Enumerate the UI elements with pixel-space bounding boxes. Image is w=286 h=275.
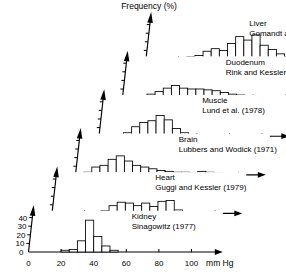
- histogram-bar: [236, 37, 244, 59]
- y-tick-label-0: 0: [19, 248, 24, 257]
- panel-y-axis-arrow: [53, 167, 59, 178]
- y-tick-label-30: 30: [17, 222, 26, 231]
- x-tick-label-100: 100: [185, 259, 199, 268]
- panel-subtitle-kidney: Sinagowitz (1977): [132, 222, 196, 231]
- panel-subtitle-brain: Lubbers and Wodick (1971): [179, 145, 277, 154]
- histogram-bar: [244, 40, 252, 59]
- histogram-bar: [252, 35, 260, 59]
- chart-canvas: LiverGomandt and Kessler (1973)DuodenumR…: [0, 0, 286, 275]
- oxygen-partial-pressure-histogram-figure: LiverGomandt and Kessler (1973)DuodenumR…: [0, 0, 286, 275]
- panel-subtitle-duodenum: Rink and Kessler (1973): [226, 68, 286, 77]
- x-axis-label: mm Hg: [206, 258, 234, 268]
- histogram-bar: [102, 246, 110, 252]
- histogram-bar: [110, 250, 118, 252]
- histogram-bar: [69, 249, 77, 252]
- panel-subtitle-liver: Gomandt and Kessler (1973): [249, 29, 286, 38]
- panel-title-duodenum: Duodenum: [226, 58, 265, 67]
- panel-subtitle-muscle: Lund et al. (1978): [202, 106, 265, 115]
- histogram-bar: [156, 116, 164, 137]
- panel-y-axis-arrow: [77, 128, 83, 139]
- histogram-bar: [94, 237, 102, 252]
- panel-subtitle-heart: Guggi and Kessler (1979): [155, 183, 247, 192]
- x-tick-label-0: 0: [26, 259, 31, 268]
- histogram-bar: [116, 156, 124, 175]
- histogram-bar: [61, 250, 69, 252]
- panel-title-liver: Liver: [249, 19, 267, 28]
- y-tick-label-20: 20: [17, 231, 26, 240]
- panel-y-axis-arrow: [124, 51, 130, 62]
- panel-backdrop: [20, 211, 223, 253]
- x-tick-label-80: 80: [154, 259, 163, 268]
- histogram-bar: [77, 241, 85, 252]
- panel-title-muscle: Muscle: [202, 96, 228, 105]
- x-tick-label-60: 60: [122, 259, 131, 268]
- y-tick-label-10: 10: [16, 239, 25, 248]
- panel-title-brain: Brain: [179, 135, 198, 144]
- panel-backdrop: [90, 95, 286, 137]
- y-tick-label-40: 40: [18, 214, 27, 223]
- panel-title-heart: Heart: [155, 173, 175, 182]
- y-axis-label: Frequency (%): [121, 1, 177, 11]
- x-tick-label-20: 20: [57, 259, 66, 268]
- panel-title-kidney: Kidney: [132, 212, 156, 221]
- panel-y-axis-arrow: [147, 12, 153, 23]
- panel-y-axis-arrow: [30, 205, 36, 216]
- histogram-bar: [86, 220, 94, 252]
- x-tick-label-40: 40: [89, 259, 98, 268]
- panel-y-axis-arrow: [100, 89, 106, 100]
